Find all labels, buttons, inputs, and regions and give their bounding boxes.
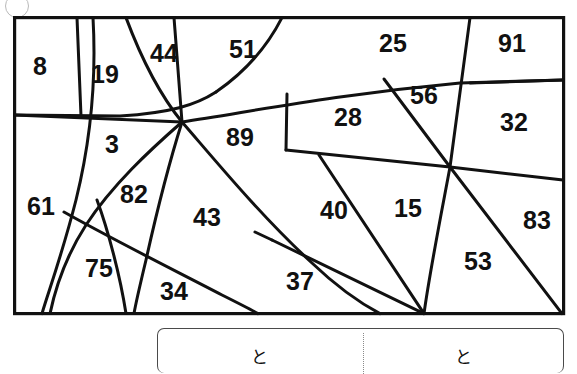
region-number: 44: [150, 39, 178, 67]
region-number: 56: [410, 81, 438, 109]
region-number: 43: [193, 203, 221, 231]
region-number: 53: [464, 247, 492, 275]
region-number: 32: [500, 108, 528, 136]
line-89-28-connector: [286, 94, 287, 150]
region-number: 25: [379, 29, 407, 57]
region-number: 37: [286, 267, 314, 295]
region-number: 28: [334, 103, 362, 131]
region-number: 19: [91, 60, 119, 88]
region-number: 15: [394, 194, 422, 222]
region-number: 34: [160, 277, 188, 305]
region-number: 89: [226, 123, 254, 151]
region-number: 8: [33, 52, 47, 80]
region-number: 61: [27, 192, 55, 220]
answer-cell-left[interactable]: と: [158, 343, 361, 368]
region-number: 51: [229, 35, 257, 63]
region-number: 82: [120, 180, 148, 208]
region-number: 40: [320, 196, 348, 224]
region-number: 3: [105, 130, 119, 158]
answer-box[interactable]: と と: [157, 328, 564, 373]
region-number: 91: [498, 29, 526, 57]
region-number: 75: [85, 254, 113, 282]
region-number: 83: [523, 206, 551, 234]
answer-cell-right[interactable]: と: [362, 343, 565, 368]
